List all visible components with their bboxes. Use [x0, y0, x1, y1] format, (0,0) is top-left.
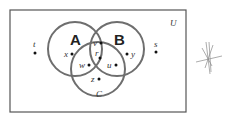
element-w-label: w: [79, 60, 85, 70]
element-s-label: s: [154, 39, 158, 49]
element-v-dot: [100, 42, 103, 45]
element-y-label: y: [130, 49, 135, 59]
element-r-dot: [99, 57, 102, 60]
scribble-mark: [196, 42, 222, 74]
venn-diagram: U A B C t s x y z v w u r: [0, 0, 234, 120]
element-t-dot: [34, 52, 37, 55]
element-z-dot: [98, 78, 101, 81]
element-s-dot: [155, 51, 158, 54]
element-x-dot: [71, 53, 74, 56]
element-v-label: v: [93, 38, 97, 48]
element-u-label: u: [107, 60, 112, 70]
set-b-label: B: [114, 31, 125, 48]
element-r-label: r: [95, 48, 99, 58]
element-x-label: x: [63, 49, 68, 59]
element-z-label: z: [90, 74, 95, 84]
element-t-label: t: [33, 39, 36, 49]
element-y-dot: [126, 53, 129, 56]
set-a-label: A: [70, 31, 81, 48]
element-u-dot: [115, 64, 118, 67]
universe-label: U: [170, 18, 177, 28]
set-c-label: C: [96, 89, 103, 99]
element-w-dot: [88, 64, 91, 67]
